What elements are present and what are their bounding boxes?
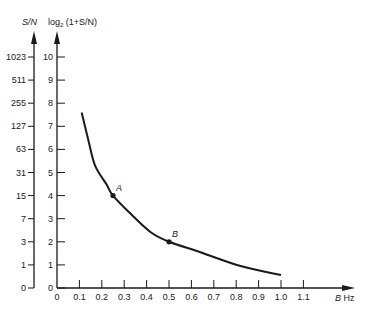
sn-tick-label: 0 bbox=[21, 283, 26, 293]
x-tick-label: 1.0 bbox=[275, 292, 288, 302]
sn-tick-label: 63 bbox=[16, 144, 26, 154]
point-b-marker bbox=[166, 239, 171, 244]
log-tick-label: 6 bbox=[48, 144, 53, 154]
x-tick-label: 0.8 bbox=[230, 292, 243, 302]
sn-tick-label: 511 bbox=[12, 75, 26, 85]
point-a-marker bbox=[110, 193, 115, 198]
x-tick-label: 1.1 bbox=[297, 292, 310, 302]
log-tick-label: 8 bbox=[48, 98, 53, 108]
annotation-points: AB bbox=[110, 183, 178, 245]
sn-tick-label: 127 bbox=[11, 121, 26, 131]
capacity-chart: 0011233741553166371278255951110102300.10… bbox=[0, 0, 369, 315]
point-a-label: A bbox=[115, 183, 122, 193]
sn-tick-label: 31 bbox=[16, 168, 26, 178]
sn-tick-label: 1 bbox=[21, 260, 26, 270]
ticks: 0011233741553166371278255951110102300.10… bbox=[6, 52, 310, 302]
log-tick-label: 9 bbox=[48, 75, 53, 85]
log-tick-label: 0 bbox=[48, 283, 53, 293]
x-axis-arrow-icon bbox=[342, 285, 355, 291]
log-tick-label: 2 bbox=[48, 237, 53, 247]
log-tick-label: 7 bbox=[48, 121, 53, 131]
sn-tick-label: 255 bbox=[11, 98, 26, 108]
x-axis-label: B Hz bbox=[335, 293, 355, 303]
log-tick-label: 3 bbox=[48, 214, 53, 224]
point-b-label: B bbox=[172, 229, 178, 239]
log-axis-arrow-icon bbox=[54, 31, 60, 44]
x-tick-label: 0.6 bbox=[185, 292, 198, 302]
sn-tick-label: 3 bbox=[21, 237, 26, 247]
log-axis-label: log2 (1+S/N) bbox=[48, 17, 97, 28]
x-tick-label: 0.1 bbox=[73, 292, 86, 302]
sn-tick-label: 7 bbox=[21, 214, 26, 224]
x-tick-label: 0.7 bbox=[208, 292, 221, 302]
x-tick-label: 0.9 bbox=[252, 292, 265, 302]
x-tick-label: 0.3 bbox=[118, 292, 131, 302]
sn-tick-label: 1023 bbox=[6, 52, 26, 62]
log-tick-label: 4 bbox=[48, 191, 53, 201]
sn-axis-label: S/N bbox=[22, 17, 38, 27]
x-tick-label: 0.2 bbox=[96, 292, 109, 302]
x-tick-label: 0 bbox=[54, 292, 59, 302]
axes bbox=[31, 31, 355, 291]
log-tick-label: 10 bbox=[43, 52, 53, 62]
sn-axis-arrow-icon bbox=[31, 31, 37, 44]
log-tick-label: 1 bbox=[48, 260, 53, 270]
x-tick-label: 0.4 bbox=[140, 292, 153, 302]
x-tick-label: 0.5 bbox=[163, 292, 176, 302]
sn-tick-label: 15 bbox=[16, 191, 26, 201]
log-tick-label: 5 bbox=[48, 168, 53, 178]
